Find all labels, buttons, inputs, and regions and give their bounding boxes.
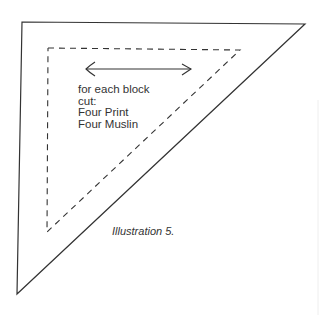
cut-instructions: for each block cut: Four Print Four Musl… (78, 84, 150, 130)
outer-cutting-line (17, 22, 305, 294)
template-drawing (0, 0, 323, 315)
figure-caption: Illustration 5. (112, 225, 174, 237)
grain-arrow-icon (86, 62, 191, 76)
instruction-line-4: Four Muslin (78, 119, 150, 131)
instruction-line-1: for each block (78, 84, 150, 96)
instruction-line-3: Four Print (78, 107, 150, 119)
illustration-5: for each block cut: Four Print Four Musl… (0, 0, 323, 315)
dashed-seam-line (47, 48, 240, 232)
